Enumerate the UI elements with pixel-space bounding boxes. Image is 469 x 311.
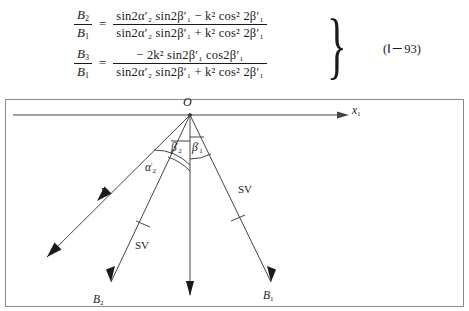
equation-1-denominator: sin2α′₂ sin2β′₁ + k² cos² 2β′₁ [113,26,267,40]
equation-1-lhs-denominator: B1 [74,26,92,41]
sv-wave-right-label: SV [238,183,252,195]
fraction-bar [113,24,267,25]
diagram-border [6,100,464,307]
equation-2-equals: = [99,55,106,71]
alpha-2-prime-label: α′2 [145,161,156,175]
diagram-canvas [5,99,464,307]
sv-wave-right-arrowhead [267,266,276,282]
equation-group-brace: } [327,6,347,84]
x-axis-label: x1 [352,104,361,118]
equation-2-rhs-fraction: − 2k² sin2β′₁ cos2β′₁ sin2α′₂ sin2β′₁ + … [113,48,267,79]
x-axis-arrowhead [337,112,349,119]
p-wave-ray [47,115,190,257]
equation-1: B2 B1 = sin2α′₂ sin2β′₁ − k² cos² 2β′₁ s… [74,8,267,41]
wave-ray-diagram: O x1 α′2 β′2 β′1 P SV SV B2 B1 [5,99,464,307]
beta-2-prime-arc [168,157,190,171]
beta-1-prime-arc [190,154,211,159]
origin-label: O [183,95,192,110]
equation-1-equals: = [99,16,106,32]
fraction-bar [113,63,267,64]
equation-1-lhs-fraction: B2 B1 [74,8,92,41]
b1-label: B1 [263,289,274,303]
sv-wave-left-label: SV [135,239,149,251]
beta-2-prime-label: β′2 [171,141,182,155]
beta-1-prime-label: β′1 [192,141,203,155]
equation-1-lhs-numerator: B2 [74,8,92,23]
b2-label: B2 [93,293,104,307]
vertical-ray-arrowhead [186,281,194,296]
equation-1-rhs-fraction: sin2α′₂ sin2β′₁ − k² cos² 2β′₁ sin2α′₂ s… [113,9,267,40]
sv-wave-right-tick [231,215,245,221]
equation-1-numerator: sin2α′₂ sin2β′₁ − k² cos² 2β′₁ [113,9,267,23]
equation-number: (Ⅰ－93) [383,38,421,57]
equation-block: B2 B1 = sin2α′₂ sin2β′₁ − k² cos² 2β′₁ s… [0,0,469,92]
equation-2-lhs-numerator: B3 [74,47,92,62]
equation-2-denominator: sin2α′₂ sin2β′₁ + k² cos² 2β′₁ [113,65,267,79]
sv-wave-left-arrowhead [106,266,115,282]
equation-2-numerator: − 2k² sin2β′₁ cos2β′₁ [133,48,247,62]
equation-2: B3 B1 = − 2k² sin2β′₁ cos2β′₁ sin2α′₂ si… [74,47,267,80]
equation-2-lhs-denominator: B1 [74,65,92,80]
p-wave-label: P [101,185,107,197]
equation-2-lhs-fraction: B3 B1 [74,47,92,80]
